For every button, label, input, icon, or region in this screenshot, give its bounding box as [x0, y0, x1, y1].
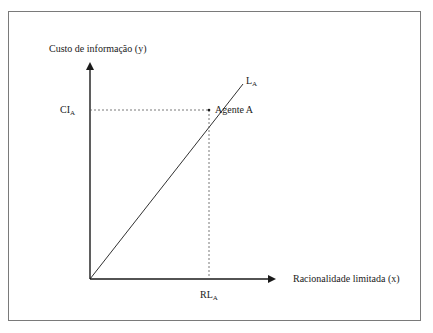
agent-a-label: Agente A: [215, 105, 253, 115]
ci-label-base: CI: [60, 104, 70, 115]
ci-a-label: CIA: [60, 105, 75, 115]
x-axis-label: Racionalidade limitada (x): [293, 274, 400, 284]
rl-label-sub: A: [213, 294, 218, 302]
line-label-sub: A: [252, 80, 257, 88]
ci-label-sub: A: [70, 109, 75, 117]
rl-a-label: RLA: [200, 290, 218, 300]
y-axis-label: Custo de informação (y): [49, 44, 146, 54]
agent-a-point: [208, 109, 211, 112]
rl-label-base: RL: [200, 289, 213, 300]
line-la-label: LA: [246, 76, 257, 86]
